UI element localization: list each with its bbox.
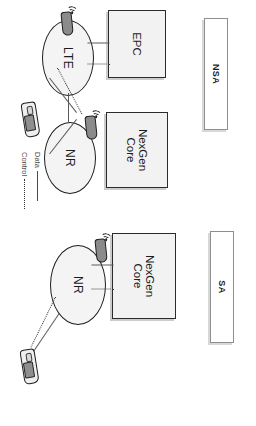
epc-core-box: EPC — [108, 10, 166, 78]
legend-swatch-data — [37, 171, 38, 201]
legend: Data Control — [8, 152, 42, 212]
sa-nexgen-core-label: NexGen Core — [132, 255, 157, 297]
legend-swatch-control — [24, 179, 25, 209]
nsa-ue-handset-icon — [21, 102, 41, 138]
nsa-section: NSA EPC NexGen Core LTE NR — [0, 0, 256, 213]
sa-section-plaque: SA — [210, 231, 234, 343]
antenna-mast-icon — [94, 238, 107, 263]
sa-section-label: SA — [217, 280, 227, 293]
link-nexgen-nr-control — [92, 289, 114, 290]
antenna-mast-icon — [60, 11, 73, 36]
legend-item-control: Control — [20, 152, 29, 209]
link-epc-lte-control — [88, 64, 110, 65]
sa-section: SA NexGen Core NR — [0, 213, 256, 426]
nsa-nr-cell-label: NR — [63, 149, 77, 167]
network-architecture-figure: NSA EPC NexGen Core LTE NR — [0, 0, 256, 426]
antenna-mast-icon — [84, 115, 97, 140]
nsa-nr-antenna-icon — [82, 107, 107, 143]
nsa-section-plaque: NSA — [204, 18, 228, 130]
epc-core-label: EPC — [131, 32, 144, 56]
nsa-nexgen-core-box: NexGen Core — [106, 112, 168, 188]
legend-label-data: Data — [33, 152, 42, 168]
link-lte-nr-data — [68, 93, 69, 123]
legend-item-data: Data — [33, 152, 42, 201]
link-epc-lte-data — [88, 43, 110, 44]
sa-nr-cell-label: NR — [71, 276, 85, 294]
sa-nexgen-core-box: NexGen Core — [112, 233, 176, 319]
nsa-section-label: NSA — [211, 64, 221, 84]
nsa-nexgen-core-label: NexGen Core — [125, 129, 150, 171]
legend-label-control: Control — [20, 152, 29, 176]
lte-cell-label: LTE — [61, 47, 75, 69]
sa-ue-handset-icon — [20, 349, 40, 385]
